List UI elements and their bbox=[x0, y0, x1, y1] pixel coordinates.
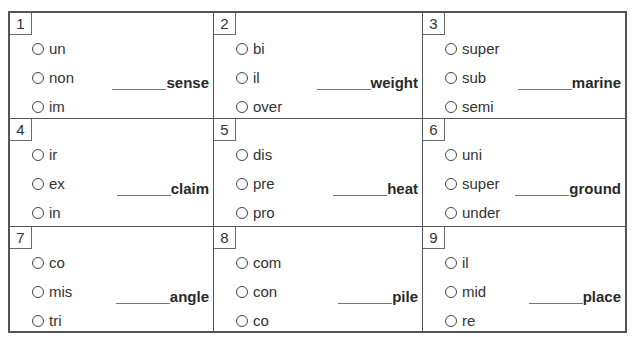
option-label: sub bbox=[462, 70, 486, 85]
radio-circle-icon[interactable] bbox=[445, 207, 457, 219]
option-item[interactable]: ex bbox=[32, 169, 65, 198]
base-word: pile bbox=[392, 286, 418, 308]
radio-circle-icon[interactable] bbox=[236, 257, 248, 269]
question-number: 5 bbox=[214, 119, 236, 141]
radio-circle-icon[interactable] bbox=[445, 315, 457, 327]
radio-circle-icon[interactable] bbox=[32, 72, 44, 84]
option-label: super bbox=[462, 41, 500, 56]
option-item[interactable]: im bbox=[32, 92, 74, 121]
option-item[interactable]: bi bbox=[236, 34, 282, 63]
base-word: claim bbox=[171, 178, 209, 200]
answer-blank[interactable] bbox=[317, 89, 371, 90]
option-item[interactable]: il bbox=[236, 63, 282, 92]
radio-circle-icon[interactable] bbox=[445, 101, 457, 113]
option-item[interactable]: co bbox=[236, 306, 281, 335]
option-item[interactable]: dis bbox=[236, 140, 275, 169]
option-label: pre bbox=[253, 176, 275, 191]
radio-circle-icon[interactable] bbox=[445, 257, 457, 269]
question-cell-2: 2 bi il over weight bbox=[214, 13, 423, 119]
radio-circle-icon[interactable] bbox=[445, 43, 457, 55]
option-item[interactable]: semi bbox=[445, 92, 500, 121]
answer-blank[interactable] bbox=[529, 303, 583, 304]
radio-circle-icon[interactable] bbox=[32, 149, 44, 161]
option-item[interactable]: mid bbox=[445, 277, 486, 306]
option-item[interactable]: in bbox=[32, 198, 65, 227]
question-cell-8: 8 com con co pile bbox=[214, 227, 423, 331]
answer-line: weight bbox=[317, 72, 419, 94]
option-item[interactable]: super bbox=[445, 34, 500, 63]
base-word: angle bbox=[170, 286, 209, 308]
option-item[interactable]: il bbox=[445, 248, 486, 277]
option-label: co bbox=[253, 313, 269, 328]
question-cell-3: 3 super sub semi marine bbox=[423, 13, 625, 119]
option-item[interactable]: co bbox=[32, 248, 72, 277]
answer-line: marine bbox=[518, 72, 621, 94]
option-item[interactable]: un bbox=[32, 34, 74, 63]
answer-blank[interactable] bbox=[518, 89, 572, 90]
radio-circle-icon[interactable] bbox=[32, 178, 44, 190]
question-cell-7: 7 co mis tri angle bbox=[10, 227, 214, 331]
option-list: il mid re bbox=[445, 248, 486, 335]
option-item[interactable]: tri bbox=[32, 306, 72, 335]
option-list: ir ex in bbox=[32, 140, 65, 227]
answer-blank[interactable] bbox=[112, 89, 166, 90]
option-label: dis bbox=[253, 147, 272, 162]
question-number: 1 bbox=[10, 13, 32, 35]
radio-circle-icon[interactable] bbox=[32, 101, 44, 113]
radio-circle-icon[interactable] bbox=[445, 286, 457, 298]
radio-circle-icon[interactable] bbox=[32, 286, 44, 298]
option-item[interactable]: super bbox=[445, 169, 500, 198]
option-label: ir bbox=[49, 147, 57, 162]
option-list: bi il over bbox=[236, 34, 282, 121]
radio-circle-icon[interactable] bbox=[236, 43, 248, 55]
question-cell-6: 6 uni super under ground bbox=[423, 119, 625, 227]
radio-circle-icon[interactable] bbox=[32, 257, 44, 269]
radio-circle-icon[interactable] bbox=[236, 178, 248, 190]
answer-blank[interactable] bbox=[515, 195, 569, 196]
option-list: co mis tri bbox=[32, 248, 72, 335]
radio-circle-icon[interactable] bbox=[236, 149, 248, 161]
question-number: 2 bbox=[214, 13, 236, 35]
radio-circle-icon[interactable] bbox=[236, 72, 248, 84]
option-item[interactable]: ir bbox=[32, 140, 65, 169]
option-item[interactable]: non bbox=[32, 63, 74, 92]
radio-circle-icon[interactable] bbox=[32, 315, 44, 327]
prefix-worksheet-grid: 1 un non im sense 2 bi il over weight 3 … bbox=[8, 11, 627, 333]
radio-circle-icon[interactable] bbox=[445, 178, 457, 190]
question-number: 7 bbox=[10, 227, 32, 249]
radio-circle-icon[interactable] bbox=[236, 101, 248, 113]
option-list: un non im bbox=[32, 34, 74, 121]
option-label: il bbox=[462, 255, 469, 270]
radio-circle-icon[interactable] bbox=[32, 43, 44, 55]
radio-circle-icon[interactable] bbox=[236, 207, 248, 219]
radio-circle-icon[interactable] bbox=[445, 72, 457, 84]
answer-blank[interactable] bbox=[116, 303, 170, 304]
option-item[interactable]: con bbox=[236, 277, 281, 306]
option-label: mis bbox=[49, 284, 72, 299]
radio-circle-icon[interactable] bbox=[236, 315, 248, 327]
option-item[interactable]: re bbox=[445, 306, 486, 335]
answer-blank[interactable] bbox=[338, 303, 392, 304]
base-word: weight bbox=[371, 72, 419, 94]
answer-blank[interactable] bbox=[117, 195, 171, 196]
option-label: uni bbox=[462, 147, 482, 162]
option-item[interactable]: uni bbox=[445, 140, 500, 169]
base-word: marine bbox=[572, 72, 621, 94]
option-item[interactable]: over bbox=[236, 92, 282, 121]
option-label: non bbox=[49, 70, 74, 85]
option-list: super sub semi bbox=[445, 34, 500, 121]
option-label: il bbox=[253, 70, 260, 85]
option-item[interactable]: pro bbox=[236, 198, 275, 227]
answer-blank[interactable] bbox=[333, 195, 387, 196]
option-label: im bbox=[49, 99, 65, 114]
option-item[interactable]: mis bbox=[32, 277, 72, 306]
option-item[interactable]: com bbox=[236, 248, 281, 277]
radio-circle-icon[interactable] bbox=[32, 207, 44, 219]
option-item[interactable]: under bbox=[445, 198, 500, 227]
answer-line: pile bbox=[338, 286, 418, 308]
option-item[interactable]: sub bbox=[445, 63, 500, 92]
radio-circle-icon[interactable] bbox=[445, 149, 457, 161]
answer-line: place bbox=[529, 286, 621, 308]
radio-circle-icon[interactable] bbox=[236, 286, 248, 298]
option-item[interactable]: pre bbox=[236, 169, 275, 198]
